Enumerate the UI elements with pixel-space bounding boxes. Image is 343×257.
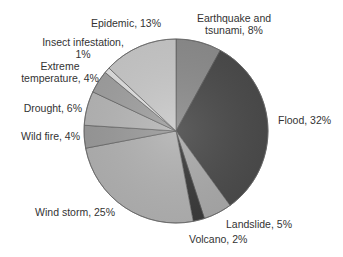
slice-label: Earthquake andtsunami, 8% (197, 12, 271, 36)
slice-label: Landslide, 5% (226, 218, 292, 230)
pie-chart: Earthquake andtsunami, 8%Flood, 32%Lands… (0, 0, 343, 257)
slice-label: Insect infestation,1% (42, 36, 124, 60)
slice-label: Extremetemperature, 4% (21, 60, 99, 84)
pie-outline (84, 39, 268, 223)
slice-label: Wild fire, 4% (21, 130, 80, 142)
slice-label: Flood, 32% (278, 114, 331, 126)
slice-label: Drought, 6% (24, 102, 82, 114)
slice-label: Epidemic, 13% (91, 17, 161, 29)
slice-label: Volcano, 2% (189, 233, 247, 245)
slice-label: Wind storm, 25% (35, 206, 115, 218)
